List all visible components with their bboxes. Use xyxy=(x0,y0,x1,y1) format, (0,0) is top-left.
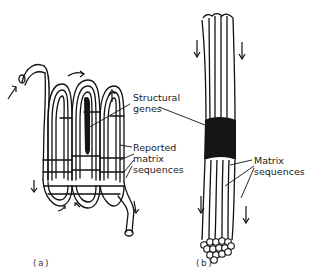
diagram-canvas xyxy=(0,0,310,273)
label-matrix-line2: sequences xyxy=(254,166,305,177)
panel-a-structural-core xyxy=(84,97,90,155)
panel-b-structural-region xyxy=(204,117,236,160)
label-matrix-line1: Matrix xyxy=(254,155,305,166)
label-reported-line1: Reported xyxy=(133,142,184,153)
panel-a-folded-fiber xyxy=(19,65,134,236)
label-reported-matrix-sequences: Reported matrix sequences xyxy=(133,142,184,175)
panel-label-b: (b) xyxy=(196,258,213,268)
label-structural-genes-line2: genes xyxy=(133,103,180,114)
panel-label-a: (a) xyxy=(33,258,50,268)
label-reported-line3: sequences xyxy=(133,164,184,175)
label-reported-line2: matrix xyxy=(133,153,184,164)
label-structural-genes-line1: Structural xyxy=(133,92,180,103)
label-matrix-sequences: Matrix sequences xyxy=(254,155,305,177)
label-structural-genes: Structural genes xyxy=(133,92,180,114)
